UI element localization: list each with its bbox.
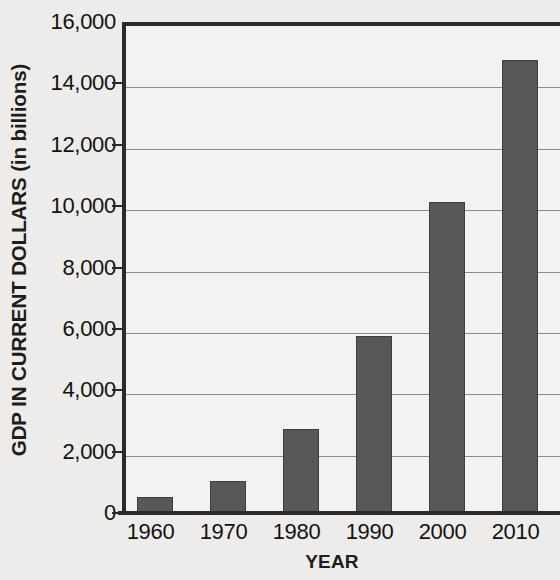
y-axis-tick-mark [112,389,123,391]
x-axis-tick-label: 2010 [492,519,540,545]
y-axis-tick-label: 12,000 [20,132,116,158]
bar [429,202,465,513]
plot-area [122,22,560,513]
gridline [126,333,560,334]
y-axis-tick-label: 14,000 [20,70,116,96]
gridline [126,272,560,273]
gridline [126,210,560,211]
x-axis-tick-label: 1970 [200,519,248,545]
x-axis-line [118,511,560,515]
bar [283,429,319,513]
y-axis-tick-label: 0 [20,500,116,526]
bar [502,60,538,513]
y-axis-tick-labels: 02,0004,0006,0008,00010,00012,00014,0001… [20,0,116,580]
y-axis-tick-label: 10,000 [20,193,116,219]
x-axis-tick-label: 1980 [273,519,321,545]
x-axis-tick-labels: 196019701980199020002010 [122,519,560,551]
x-axis-title: YEAR [122,551,542,573]
gridline [126,87,560,88]
gridline [126,456,560,457]
y-axis-tick-mark [112,451,123,453]
x-axis-tick-label: 1960 [127,519,175,545]
chart-page: GDP IN CURRENT DOLLARS (in billions) 02,… [0,0,560,580]
bar [356,336,392,513]
bar [210,481,246,513]
x-axis-tick-label: 1990 [346,519,394,545]
plot-inner [126,26,560,513]
y-axis-tick-label: 16,000 [20,9,116,35]
y-axis-tick-label: 4,000 [20,377,116,403]
y-axis-tick-mark [112,82,123,84]
y-axis-tick-mark [112,205,123,207]
gridline [126,149,560,150]
y-axis-tick-label: 2,000 [20,439,116,465]
gridline [126,394,560,395]
y-axis-tick-mark [112,267,123,269]
x-axis-tick-label: 2000 [419,519,467,545]
y-axis-tick-mark [112,512,123,514]
y-axis-tick-label: 8,000 [20,255,116,281]
y-axis-tick-label: 6,000 [20,316,116,342]
y-axis-tick-mark [112,328,123,330]
y-axis-tick-mark [112,144,123,146]
